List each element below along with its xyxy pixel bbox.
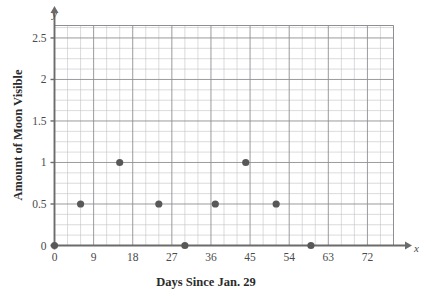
y-tick-label: 1	[41, 156, 47, 168]
scatter-plot-figure: 0918273645546372 00.511.522.5 x y Days S…	[0, 0, 431, 298]
y-axis-title: Amount of Moon Visible	[11, 69, 25, 200]
data-point	[212, 200, 219, 207]
x-axis-letter: x	[413, 242, 419, 254]
x-tick-label: 45	[244, 251, 256, 263]
data-point	[273, 200, 280, 207]
y-tick-label: 1.5	[32, 115, 47, 127]
y-axis-letter: y	[51, 8, 57, 20]
x-axis-title: Days Since Jan. 29	[156, 275, 255, 289]
data-point	[242, 159, 249, 166]
x-tick-label: 63	[323, 251, 335, 263]
x-tick-label: 18	[127, 251, 139, 263]
x-tick-label: 27	[166, 251, 178, 263]
data-point	[155, 200, 162, 207]
y-tick-label: 2	[41, 73, 47, 85]
data-point	[307, 242, 314, 249]
data-point	[181, 242, 188, 249]
y-tick-label: 0.5	[32, 198, 47, 210]
y-tick-label: 0	[41, 240, 47, 252]
data-point	[116, 159, 123, 166]
data-point	[51, 242, 58, 249]
x-tick-label: 54	[283, 251, 295, 263]
x-tick-label: 0	[52, 251, 58, 263]
data-point	[77, 200, 84, 207]
x-tick-label: 72	[362, 251, 374, 263]
y-tick-label: 2.5	[32, 32, 47, 44]
x-tick-label: 9	[91, 251, 97, 263]
x-tick-label: 36	[205, 251, 217, 263]
